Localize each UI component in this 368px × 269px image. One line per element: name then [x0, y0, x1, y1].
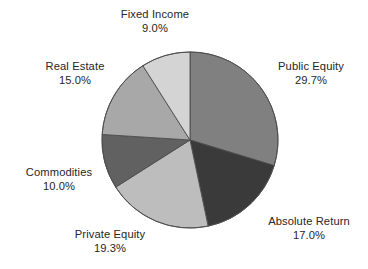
slice-label-name: Fixed Income	[100, 8, 210, 22]
slice-label-name: Public Equity	[258, 60, 364, 74]
slice-label-value: 29.7%	[258, 74, 364, 88]
slice-label-value: 9.0%	[100, 22, 210, 36]
slice-label-absolute-return: Absolute Return 17.0%	[252, 215, 366, 242]
slice-label-value: 10.0%	[6, 180, 112, 194]
pie-chart-figure: Fixed Income 9.0% Public Equity 29.7% Ab…	[0, 0, 368, 269]
slice-label-public-equity: Public Equity 29.7%	[258, 60, 364, 87]
slice-label-commodities: Commodities 10.0%	[6, 166, 112, 193]
slice-label-name: Private Equity	[52, 228, 168, 242]
slice-label-value: 17.0%	[252, 229, 366, 243]
slice-label-real-estate: Real Estate 15.0%	[22, 60, 128, 87]
slice-label-name: Absolute Return	[252, 215, 366, 229]
pie-slice-group	[102, 52, 278, 228]
slice-label-fixed-income: Fixed Income 9.0%	[100, 8, 210, 35]
slice-label-value: 19.3%	[52, 242, 168, 256]
slice-label-name: Commodities	[6, 166, 112, 180]
slice-label-value: 15.0%	[22, 74, 128, 88]
slice-label-name: Real Estate	[22, 60, 128, 74]
slice-label-private-equity: Private Equity 19.3%	[52, 228, 168, 255]
